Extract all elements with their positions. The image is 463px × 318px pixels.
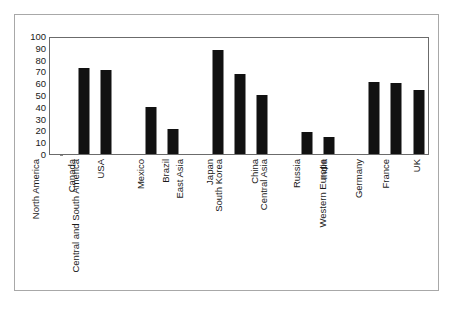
bar-slot — [162, 38, 184, 154]
x-tick-label: Brazil — [160, 159, 171, 183]
y-tick-label: 40 — [14, 103, 46, 113]
bar[interactable] — [212, 50, 223, 154]
bar[interactable] — [369, 82, 380, 154]
x-tick-label: Central Asia — [258, 159, 269, 210]
x-axis: North AmericaCanadaUSACentral and South … — [49, 157, 429, 285]
x-tick-label: East Asia — [174, 159, 185, 199]
bar-slot — [251, 38, 273, 154]
plot-area — [49, 37, 429, 155]
x-tick-label: Russia — [292, 159, 303, 188]
x-tick-slot: Russia — [295, 157, 317, 285]
y-tick-label: 30 — [14, 115, 46, 125]
bar[interactable] — [391, 83, 402, 154]
x-tick-slot: South Korea — [228, 157, 250, 285]
x-tick-label: Central and South America — [70, 159, 81, 273]
x-tick-label: Germany — [354, 159, 365, 198]
y-tick-label: 20 — [14, 126, 46, 136]
bar-slot — [341, 38, 363, 154]
bar[interactable] — [413, 90, 424, 154]
bar-slot — [385, 38, 407, 154]
x-tick-label: Western Europe — [317, 159, 328, 227]
y-tick-mark — [60, 155, 63, 156]
bar-slot — [408, 38, 430, 154]
x-tick-slot: France — [384, 157, 406, 285]
x-tick-label: USA — [95, 159, 106, 179]
y-tick-label: 80 — [14, 56, 46, 66]
bar-slot — [117, 38, 139, 154]
bar-slot — [274, 38, 296, 154]
bar[interactable] — [167, 129, 178, 154]
bar-slot — [184, 38, 206, 154]
y-tick-label: 50 — [14, 91, 46, 101]
bar-slot — [95, 38, 117, 154]
bar-slot — [296, 38, 318, 154]
bar-slot — [363, 38, 385, 154]
x-tick-slot: Mexico — [138, 157, 160, 285]
y-tick-label: 10 — [14, 138, 46, 148]
bar[interactable] — [145, 107, 156, 154]
x-tick-label: South Korea — [213, 159, 224, 212]
x-tick-label: North America — [30, 159, 41, 219]
bar[interactable] — [324, 137, 335, 154]
bars-layer — [50, 38, 428, 154]
y-tick-label: 90 — [14, 44, 46, 54]
x-tick-label: France — [381, 159, 392, 189]
bar-slot — [318, 38, 340, 154]
bar[interactable] — [234, 74, 245, 154]
x-tick-slot: USA — [94, 157, 116, 285]
bar[interactable] — [257, 95, 268, 154]
bar[interactable] — [100, 70, 111, 154]
x-tick-slot: East Asia — [183, 157, 205, 285]
x-tick-label: Mexico — [135, 159, 146, 189]
bar[interactable] — [78, 68, 89, 154]
x-tick-slot: UK — [407, 157, 429, 285]
x-tick-label: UK — [411, 159, 422, 172]
bar-slot — [139, 38, 161, 154]
y-axis: 0102030405060708090100 — [14, 31, 46, 161]
bar-slot — [206, 38, 228, 154]
bar-slot — [72, 38, 94, 154]
y-tick-label: 60 — [14, 79, 46, 89]
bar[interactable] — [302, 132, 313, 154]
bar-slot — [50, 38, 72, 154]
bar-slot — [229, 38, 251, 154]
y-tick-label: 100 — [14, 32, 46, 42]
bar-chart-figure: 0102030405060708090100 North AmericaCana… — [0, 0, 463, 318]
y-tick-label: 70 — [14, 67, 46, 77]
